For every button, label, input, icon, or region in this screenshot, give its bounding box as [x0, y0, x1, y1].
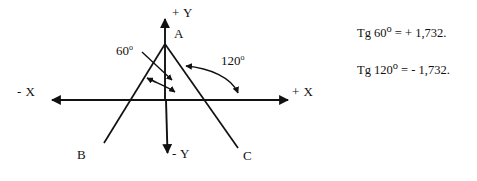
equation-tg-120-result: - 1,732.: [411, 63, 450, 77]
equation-tg-120-equals: =: [401, 63, 408, 77]
axis-label-positive-x: + X: [292, 85, 313, 98]
axis-label-negative-y: - Y: [172, 147, 190, 160]
equation-tg-120-degree-icon: o: [393, 60, 398, 71]
axis-label-positive-y: + Y: [172, 6, 193, 19]
y-axis-negative-line: [166, 100, 168, 153]
point-label-a: A: [174, 27, 183, 40]
equation-tg-60-function: Tg: [357, 26, 371, 40]
equation-tg-120-argument: 120: [374, 63, 393, 77]
angle-label-120-value: 120: [221, 53, 241, 68]
angle-label-60-value: 60: [116, 43, 129, 58]
equation-tg-60: Tg 60o = + 1,732.: [357, 24, 446, 40]
point-label-b: B: [77, 148, 86, 161]
equation-tg-120-function: Tg: [357, 63, 371, 77]
angle-label-120-degree-icon: o: [241, 53, 245, 62]
angle-label-120: 120o: [221, 54, 245, 67]
figure-root: + Y - Y - X + X A B C 60o 120o Tg 60o = …: [0, 0, 477, 181]
point-label-c: C: [243, 149, 252, 162]
equation-tg-60-degree-icon: o: [387, 23, 392, 34]
equation-tg-60-argument: 60: [374, 26, 387, 40]
angle-label-60: 60o: [116, 44, 133, 57]
equation-tg-60-result: + 1,732.: [405, 26, 446, 40]
axis-label-negative-x: - X: [17, 85, 35, 98]
angle-120-arc: [186, 66, 238, 93]
equation-tg-60-equals: =: [395, 26, 402, 40]
angle-60-arc: [147, 78, 175, 92]
ray-ab: [104, 44, 165, 143]
angle-label-60-degree-icon: o: [129, 43, 133, 52]
equation-tg-120: Tg 120o = - 1,732.: [357, 61, 450, 77]
